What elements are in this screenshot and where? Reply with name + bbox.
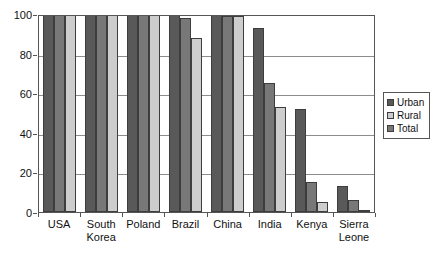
y-tick-mark bbox=[33, 55, 37, 56]
x-axis-labels: USASouth KoreaPolandBrazilChinaIndiaKeny… bbox=[38, 218, 375, 258]
x-axis-label: Brazil bbox=[164, 218, 206, 258]
legend-label: Rural bbox=[397, 110, 421, 121]
x-tick-mark bbox=[38, 213, 39, 217]
bar-rural bbox=[275, 107, 286, 212]
bar-chart: 020406080100 USASouth KoreaPolandBrazilC… bbox=[0, 0, 440, 260]
bar-group bbox=[332, 16, 374, 212]
x-tick-mark bbox=[164, 213, 165, 217]
bar-group bbox=[290, 16, 332, 212]
y-tick-label: 60 bbox=[2, 89, 32, 100]
y-tick-mark bbox=[33, 134, 37, 135]
bar-urban bbox=[127, 15, 138, 212]
y-tick-mark bbox=[33, 94, 37, 95]
bar-urban bbox=[253, 28, 264, 212]
chart-legend: UrbanRuralTotal bbox=[383, 92, 430, 139]
bar-group bbox=[123, 16, 165, 212]
bar-urban bbox=[169, 15, 180, 212]
y-axis: 020406080100 bbox=[0, 0, 32, 260]
x-axis-label: Sierra Leone bbox=[333, 218, 375, 258]
y-tick-mark bbox=[33, 173, 37, 174]
x-tick-mark bbox=[291, 213, 292, 217]
x-axis-label: USA bbox=[38, 218, 80, 258]
x-axis-label: China bbox=[207, 218, 249, 258]
bar-total bbox=[306, 182, 317, 212]
bar-urban bbox=[337, 186, 348, 212]
x-tick-mark bbox=[375, 213, 376, 217]
bar-groups bbox=[39, 16, 374, 212]
bar-urban bbox=[85, 15, 96, 212]
bar-total bbox=[264, 83, 275, 212]
bar-rural bbox=[149, 15, 160, 212]
x-axis-label: Kenya bbox=[291, 218, 333, 258]
plot-area bbox=[38, 15, 375, 213]
y-tick-label: 100 bbox=[2, 10, 32, 21]
x-tick-mark bbox=[207, 213, 208, 217]
x-axis-label: India bbox=[249, 218, 291, 258]
bar-total bbox=[348, 200, 359, 212]
x-tick-mark bbox=[249, 213, 250, 217]
bar-rural bbox=[191, 38, 202, 212]
bar-rural bbox=[359, 210, 370, 212]
legend-swatch-rural-icon bbox=[387, 112, 394, 119]
bar-total bbox=[138, 15, 149, 212]
y-tick-label: 0 bbox=[2, 208, 32, 219]
x-axis-label: Poland bbox=[122, 218, 164, 258]
bar-total bbox=[180, 18, 191, 212]
bar-total bbox=[54, 15, 65, 212]
x-tick-mark bbox=[333, 213, 334, 217]
y-tick-mark bbox=[33, 213, 37, 214]
y-tick-label: 80 bbox=[2, 49, 32, 60]
bar-rural bbox=[233, 16, 244, 212]
bar-urban bbox=[43, 15, 54, 212]
bar-group bbox=[39, 16, 81, 212]
y-tick-label: 40 bbox=[2, 128, 32, 139]
bar-group bbox=[248, 16, 290, 212]
bar-total bbox=[96, 15, 107, 212]
x-tick-mark bbox=[80, 213, 81, 217]
y-tick-label: 20 bbox=[2, 168, 32, 179]
bar-group bbox=[165, 16, 207, 212]
legend-label: Urban bbox=[397, 97, 424, 108]
y-tick-mark bbox=[33, 15, 37, 16]
legend-item: Rural bbox=[387, 109, 426, 122]
legend-label: Total bbox=[397, 123, 418, 134]
bar-rural bbox=[107, 15, 118, 212]
legend-swatch-urban-icon bbox=[387, 99, 394, 106]
bar-group bbox=[207, 16, 249, 212]
legend-swatch-total-icon bbox=[387, 125, 394, 132]
bar-total bbox=[222, 16, 233, 212]
legend-item: Total bbox=[387, 122, 426, 135]
x-axis-label: South Korea bbox=[80, 218, 122, 258]
bar-rural bbox=[65, 15, 76, 212]
bar-urban bbox=[211, 15, 222, 212]
bar-rural bbox=[317, 202, 328, 212]
x-tick-mark bbox=[122, 213, 123, 217]
bar-group bbox=[81, 16, 123, 212]
bar-urban bbox=[295, 109, 306, 212]
legend-item: Urban bbox=[387, 96, 426, 109]
